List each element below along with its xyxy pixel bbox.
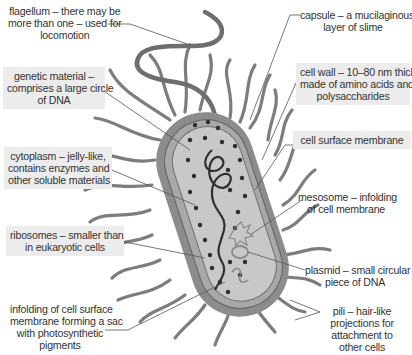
label-line: of DNA <box>7 94 101 106</box>
label-mesosome: mesosome – infolding of cell membrane <box>298 191 394 215</box>
label-cell-surface-membrane: cell surface membrane <box>293 131 411 149</box>
label-line: projections for <box>322 317 402 329</box>
label-line: mesosome – infolding <box>298 191 394 203</box>
label-line: ribosomes – smaller than <box>10 229 120 241</box>
label-line: pili – hair-like <box>322 305 402 317</box>
label-line: of cell membrane <box>298 203 394 215</box>
label-line: cell wall – 10–80 nm thick, <box>300 66 406 78</box>
label-line: genetic material – <box>7 70 101 82</box>
flagellum <box>137 12 222 115</box>
label-line: contains enzymes and <box>8 162 108 174</box>
label-line: with photosynthetic <box>10 327 110 339</box>
label-line: other cells <box>322 341 402 353</box>
label-line: membrane forming a sac <box>10 315 110 327</box>
label-capsule: capsule – a mucilaginous layer of slime <box>300 9 406 33</box>
label-line: made of amino acids and <box>300 78 406 90</box>
label-ribosomes: ribosomes – smaller than in eukaryotic c… <box>6 226 124 256</box>
label-line: flagellum – there may be <box>8 5 122 17</box>
label-line: piece of DNA <box>305 276 405 288</box>
label-line: other soluble materials <box>8 174 108 186</box>
label-cytoplasm: cytoplasm – jelly-like, contains enzymes… <box>4 147 112 189</box>
label-photosynthetic-infolding: infolding of cell surface membrane formi… <box>10 303 110 351</box>
label-plasmid: plasmid – small circular piece of DNA <box>305 264 405 288</box>
label-line: comprises a large circle <box>7 82 101 94</box>
label-flagellum: flagellum – there may be more than one –… <box>8 5 122 41</box>
label-line: cell surface membrane <box>297 134 407 146</box>
label-line: infolding of cell surface <box>10 303 110 315</box>
label-line: in eukaryotic cells <box>10 241 120 253</box>
label-genetic-material: genetic material – comprises a large cir… <box>3 67 105 109</box>
label-line: capsule – a mucilaginous <box>300 9 406 21</box>
label-pili: pili – hair-like projections for attachm… <box>322 305 402 353</box>
label-line: cytoplasm – jelly-like, <box>8 150 108 162</box>
label-line: locomotion <box>8 29 122 41</box>
label-line: attachment to <box>322 329 402 341</box>
label-line: layer of slime <box>300 21 406 33</box>
label-line: polysaccharides <box>300 90 406 102</box>
label-cell-wall: cell wall – 10–80 nm thick, made of amin… <box>296 63 410 105</box>
label-line: pigments <box>10 339 110 351</box>
label-line: more than one – used for <box>8 17 122 29</box>
label-line: plasmid – small circular <box>305 264 405 276</box>
